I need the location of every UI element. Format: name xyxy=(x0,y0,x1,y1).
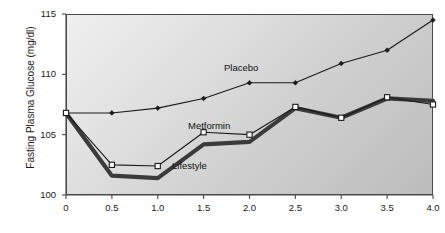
data-point-marker xyxy=(385,95,390,100)
data-point-marker xyxy=(155,106,160,111)
series-label-lifestyle: Lifestyle xyxy=(172,160,207,171)
x-tick-label: 2.0 xyxy=(233,202,267,213)
data-point-marker xyxy=(293,104,298,109)
series-label-placebo: Placebo xyxy=(224,62,258,73)
x-tick-label: 0 xyxy=(49,202,83,213)
series-metformin xyxy=(63,95,435,169)
series-lifestyle xyxy=(66,98,433,178)
x-tick-label: 1.0 xyxy=(141,202,175,213)
data-point-marker xyxy=(339,61,344,66)
x-tick-label: 0.5 xyxy=(95,202,129,213)
x-tick-label: 3.0 xyxy=(324,202,358,213)
series-label-metformin: Metformin xyxy=(188,120,230,131)
x-tick-label: 1.5 xyxy=(187,202,221,213)
chart-figure: Fasting Plasma Glucose (mg/dl) 100105110… xyxy=(0,0,445,233)
data-point-marker xyxy=(109,111,114,116)
data-point-marker xyxy=(247,80,252,85)
data-point-marker xyxy=(201,96,206,101)
data-point-marker xyxy=(247,132,252,137)
y-tick-label: 115 xyxy=(28,8,56,19)
y-tick-label: 100 xyxy=(28,189,56,200)
chart-canvas xyxy=(0,0,445,233)
y-tick-label: 110 xyxy=(28,68,56,79)
y-tick-label: 105 xyxy=(28,129,56,140)
data-point-marker xyxy=(430,102,435,107)
x-tick-label: 3.5 xyxy=(370,202,404,213)
x-tick-label: 2.5 xyxy=(278,202,312,213)
data-point-marker xyxy=(63,110,68,115)
data-point-marker xyxy=(155,163,160,168)
x-tick-label: 4.0 xyxy=(416,202,445,213)
data-point-marker xyxy=(293,80,298,85)
data-point-marker xyxy=(339,115,344,120)
data-point-marker xyxy=(109,162,114,167)
series-line xyxy=(66,98,433,178)
